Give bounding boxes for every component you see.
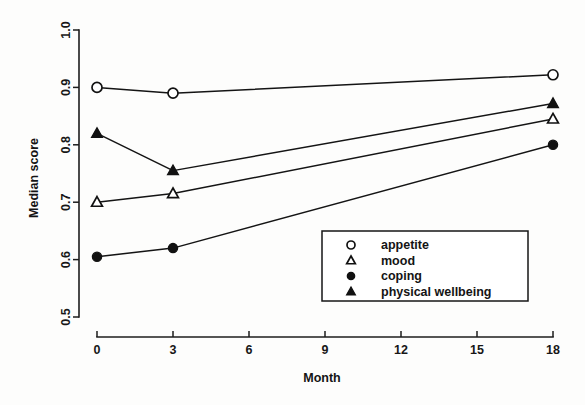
series-line bbox=[97, 75, 553, 93]
series-line bbox=[97, 119, 553, 202]
chart-figure: 0.50.60.70.80.91.0 0369121518 Median sco… bbox=[0, 0, 585, 405]
data-point-marker-filled-triangle bbox=[548, 98, 559, 108]
series-appetite bbox=[92, 70, 558, 98]
data-point-marker-filled-triangle bbox=[92, 128, 103, 138]
x-tick-label: 18 bbox=[546, 343, 560, 357]
data-point-marker-filled-circle bbox=[168, 244, 177, 253]
x-axis: 0369121518 bbox=[94, 331, 560, 357]
axis-titles: Median score Month bbox=[27, 138, 341, 385]
data-point-marker-filled-circle bbox=[347, 272, 354, 279]
x-tick-label: 6 bbox=[246, 343, 253, 357]
data-point-marker-filled-circle bbox=[92, 252, 101, 261]
data-point-marker-open-circle bbox=[168, 88, 178, 98]
y-tick-label: 0.7 bbox=[59, 193, 73, 210]
data-point-marker-open-circle bbox=[347, 241, 355, 249]
y-axis: 0.50.60.70.80.91.0 bbox=[59, 21, 79, 325]
legend-label-coping: coping bbox=[381, 269, 422, 283]
x-axis-title: Month bbox=[303, 371, 340, 385]
data-point-marker-open-circle bbox=[92, 82, 102, 92]
series-mood bbox=[92, 113, 559, 206]
y-tick-label: 0.9 bbox=[59, 79, 73, 96]
data-point-marker-filled-circle bbox=[548, 140, 557, 149]
x-tick-label: 9 bbox=[322, 343, 329, 357]
y-tick-label: 0.8 bbox=[59, 136, 73, 153]
y-axis-title: Median score bbox=[27, 138, 41, 218]
data-point-marker-open-circle bbox=[548, 70, 558, 80]
x-tick-label: 3 bbox=[170, 343, 177, 357]
line-chart-canvas: 0.50.60.70.80.91.0 0369121518 Median sco… bbox=[0, 0, 585, 405]
legend-label-physical-wellbeing: physical wellbeing bbox=[381, 285, 491, 299]
legend-label-mood: mood bbox=[381, 254, 415, 268]
data-point-marker-open-triangle bbox=[548, 113, 559, 123]
series-line bbox=[97, 103, 553, 170]
x-tick-label: 0 bbox=[94, 343, 101, 357]
x-tick-label: 15 bbox=[470, 343, 484, 357]
y-tick-label: 0.6 bbox=[59, 251, 73, 268]
x-tick-label: 12 bbox=[394, 343, 408, 357]
y-tick-label: 0.5 bbox=[59, 308, 73, 325]
y-tick-label: 1.0 bbox=[59, 21, 73, 38]
legend: appetitemoodcopingphysical wellbeing bbox=[322, 231, 528, 301]
legend-label-appetite: appetite bbox=[381, 238, 429, 252]
